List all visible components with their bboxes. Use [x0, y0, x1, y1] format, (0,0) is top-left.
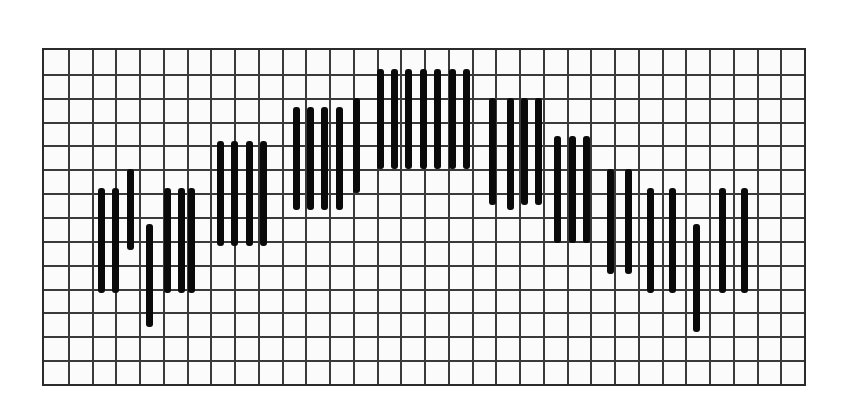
bar [420, 69, 427, 169]
bar [246, 141, 253, 246]
bar [336, 107, 343, 210]
bar [463, 69, 470, 169]
bar [449, 69, 456, 169]
bar [719, 188, 726, 293]
bar [307, 107, 314, 210]
bar [569, 136, 576, 243]
bar [554, 136, 561, 243]
bar [188, 188, 195, 293]
bar [293, 107, 300, 210]
bar [178, 188, 185, 293]
bar [164, 188, 171, 293]
bar [231, 141, 238, 246]
bar [741, 188, 748, 293]
bar [391, 69, 398, 169]
bar [127, 169, 134, 250]
bar [377, 69, 384, 169]
bar [669, 188, 676, 293]
bar [321, 107, 328, 210]
bar [112, 188, 119, 293]
bar [507, 98, 514, 210]
bar [607, 169, 614, 274]
bar [405, 69, 412, 169]
bar [625, 169, 632, 274]
bar [434, 69, 441, 169]
screenshot-root [0, 0, 848, 403]
bar [260, 141, 267, 246]
bar [521, 98, 528, 205]
bar [647, 188, 654, 293]
bar [146, 224, 153, 327]
bar [583, 136, 590, 243]
bar [217, 141, 224, 246]
bar [489, 98, 496, 205]
bar [535, 98, 542, 205]
bar [353, 98, 360, 193]
bar [98, 188, 105, 293]
bar [693, 224, 700, 331]
bars-layer [44, 50, 804, 384]
plot-frame [42, 48, 806, 386]
